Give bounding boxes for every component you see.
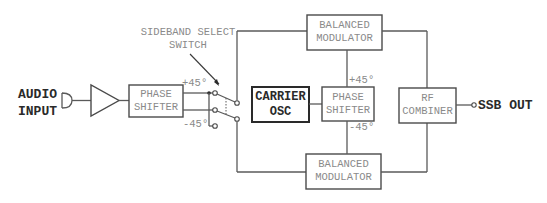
minus45-rf-label: -45° xyxy=(349,121,374,134)
phase-shifter-rf-label: PHASE SHIFTER xyxy=(322,91,374,117)
switch-terminal xyxy=(213,108,218,113)
switch-terminal xyxy=(213,91,218,96)
ssb-out-label: SSB OUT xyxy=(478,97,533,114)
plus45-rf-label: +45° xyxy=(349,74,374,87)
balanced-modulator-bottom-label: BALANCED MODULATOR xyxy=(306,158,381,184)
audio-jack-icon xyxy=(62,93,72,108)
switch-terminal xyxy=(213,124,218,129)
switch-blade[interactable] xyxy=(217,111,235,118)
amplifier-icon xyxy=(91,85,119,116)
plus45-audio-label: +45° xyxy=(182,77,207,90)
audio-input-label: AUDIO INPUT xyxy=(18,86,57,120)
carrier-osc-label: CARRIER OSC xyxy=(252,90,309,120)
rf-combiner-label: RF COMBINER xyxy=(399,92,456,118)
sideband-switch-label: SIDEBAND SELECT SWITCH xyxy=(138,26,238,52)
balanced-modulator-top-label: BALANCED MODULATOR xyxy=(307,19,382,45)
output-terminal-icon xyxy=(472,103,476,107)
minus45-audio-label: -45° xyxy=(183,118,208,131)
phase-shifter-audio-label: PHASE SHIFTER xyxy=(129,88,183,114)
